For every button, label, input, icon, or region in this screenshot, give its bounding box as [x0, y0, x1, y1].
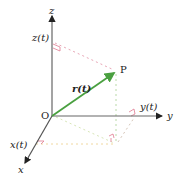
- vector-diagram: z z(t) P r(t) O y(t) y x(t) x: [0, 0, 182, 184]
- y-component-label: y(t): [139, 101, 158, 112]
- x-axis: [25, 116, 52, 163]
- origin-label: O: [41, 110, 49, 121]
- x-component-label: x(t): [10, 139, 28, 150]
- vector-label: r(t): [72, 83, 92, 94]
- z-component-label: z(t): [31, 32, 49, 43]
- x-axis-label: x: [18, 164, 24, 175]
- z-axis-label: z: [48, 5, 55, 16]
- point-label: P: [120, 64, 127, 75]
- y-axis-label: y: [166, 110, 173, 121]
- position-vector: [52, 73, 114, 116]
